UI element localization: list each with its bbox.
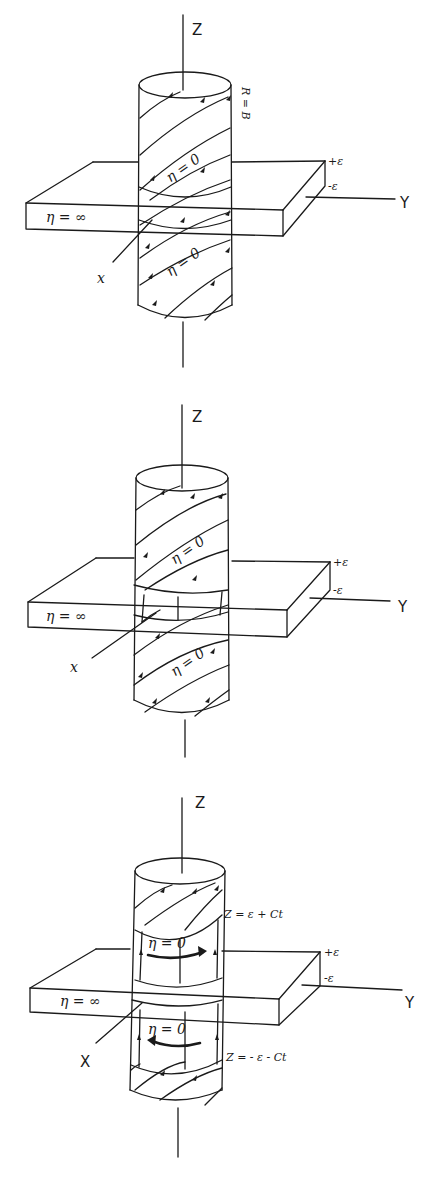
z-axis-label: Z bbox=[192, 408, 202, 426]
slab-label: η = ∞ bbox=[46, 608, 87, 624]
x-axis-label: x bbox=[70, 659, 78, 675]
slab-bottom-label: -ε bbox=[324, 972, 334, 985]
rotation-arrow-upper bbox=[148, 952, 203, 958]
slab-bottom-label: -ε bbox=[333, 584, 343, 597]
slab-top-label: +ε bbox=[333, 556, 348, 569]
cylinder bbox=[130, 858, 225, 1105]
rotation-arrow-lower bbox=[152, 1041, 200, 1046]
panel-2: Z η = ∞ +ε -ε Y x bbox=[28, 405, 408, 757]
cylinder-upper-label: η = 0 bbox=[148, 935, 186, 951]
cylinder bbox=[138, 72, 232, 320]
y-axis bbox=[306, 197, 395, 199]
panel-3: Z η = ∞ +ε -ε Y X bbox=[30, 794, 415, 1157]
panel-1: Z η = ∞ +ε -ε Y x bbox=[26, 15, 410, 367]
z-axis-label: Z bbox=[192, 21, 202, 39]
y-axis-label: Y bbox=[397, 598, 408, 616]
radius-label: R = B bbox=[239, 86, 252, 120]
upper-front-label: Z = ε + Ct bbox=[223, 908, 283, 921]
cylinder-upper-label: η = 0 bbox=[167, 532, 207, 567]
slab-label: η = ∞ bbox=[60, 993, 101, 1009]
y-axis-label: Y bbox=[404, 994, 415, 1012]
y-axis-label: Y bbox=[399, 194, 410, 212]
diagram-canvas: Z η = ∞ +ε -ε Y x bbox=[0, 0, 443, 1181]
z-axis-label: Z bbox=[195, 794, 205, 812]
cylinder bbox=[134, 465, 229, 716]
slab-top-label: +ε bbox=[324, 946, 339, 959]
slab-bottom-label: -ε bbox=[328, 180, 338, 193]
lower-front-label: Z = - ε - Ct bbox=[225, 1051, 287, 1064]
cylinder-lower-label: η = 0 bbox=[148, 1021, 186, 1037]
x-axis bbox=[96, 1003, 142, 1043]
cylinder-lower-label: η = 0 bbox=[163, 244, 203, 279]
cylinder-lower-label: η = 0 bbox=[167, 644, 207, 679]
x-axis-label: x bbox=[97, 270, 105, 286]
slab-label: η = ∞ bbox=[46, 209, 87, 225]
slab-top-label: +ε bbox=[328, 155, 343, 168]
x-axis bbox=[92, 613, 156, 658]
x-axis-label: X bbox=[80, 1053, 90, 1071]
x-axis bbox=[113, 220, 152, 262]
